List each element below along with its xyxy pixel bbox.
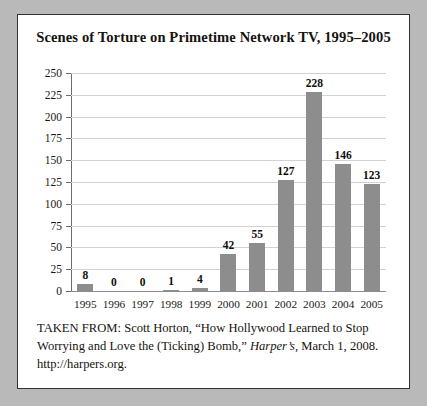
bar-group[interactable]: 1462004 [329,73,358,291]
caption-url: http://harpers.org. [37,357,127,371]
x-tick-label: 2001 [243,298,272,310]
y-tick-label: 25 [51,263,63,275]
bar-value-label: 127 [271,165,300,177]
bar-group[interactable]: 01996 [100,73,129,291]
bar[interactable] [163,290,179,291]
x-tick-label: 1997 [128,298,157,310]
bar-value-label: 55 [243,228,272,240]
caption-source-title: Harper’s [250,339,295,353]
bar-value-label: 42 [214,239,243,251]
bar[interactable] [364,184,380,291]
bar[interactable] [220,254,236,291]
chart-title: Scenes of Torture on Primetime Network T… [18,29,409,46]
bar-group[interactable]: 81995 [71,73,100,291]
y-tick-label: 175 [45,132,62,144]
y-tick-label: 75 [51,220,63,232]
bar-group[interactable]: 11998 [157,73,186,291]
bar-group[interactable]: 422000 [214,73,243,291]
bar[interactable] [77,284,93,291]
x-tick-label: 1998 [157,298,186,310]
x-tick-label: 1996 [100,298,129,310]
bar-value-label: 0 [100,276,129,288]
y-tick-label: 225 [45,89,62,101]
x-tick-label: 2002 [271,298,300,310]
bar-group[interactable]: 1272002 [271,73,300,291]
bar[interactable] [306,92,322,291]
chart-figure: Scenes of Torture on Primetime Network T… [17,14,410,389]
bar-group[interactable]: 01997 [128,73,157,291]
y-tick-label: 250 [45,67,62,79]
y-tick-label: 125 [45,176,62,188]
bar[interactable] [249,243,265,291]
bar[interactable] [278,180,294,291]
bar-value-label: 8 [71,269,100,281]
bar-group[interactable]: 1232005 [357,73,386,291]
plot-area: 0255075100125150175200225250 81995019960… [71,73,386,291]
figure-caption: TAKEN FROM: Scott Horton, “How Hollywood… [37,320,394,374]
bar-group[interactable]: 41999 [186,73,215,291]
caption-text-after-source: , March 1, 2008. [295,339,378,353]
bar-value-label: 146 [329,149,358,161]
bar-value-label: 123 [357,169,386,181]
x-tick-label: 2000 [214,298,243,310]
bar[interactable] [192,288,208,291]
bar-value-label: 0 [128,276,157,288]
y-tick-mark [66,291,71,292]
bar-group[interactable]: 552001 [243,73,272,291]
bar-group[interactable]: 2282003 [300,73,329,291]
y-tick-label: 200 [45,111,62,123]
y-tick-label: 0 [56,285,62,297]
x-tick-label: 2003 [300,298,329,310]
y-tick-label: 50 [51,241,63,253]
bar-value-label: 1 [157,275,186,287]
x-tick-label: 2004 [329,298,358,310]
x-tick-label: 1999 [186,298,215,310]
x-tick-label: 1995 [71,298,100,310]
x-tick-label: 2005 [357,298,386,310]
bar-value-label: 4 [186,273,215,285]
y-tick-label: 150 [45,154,62,166]
bar[interactable] [335,164,351,291]
bar-value-label: 228 [300,77,329,89]
gridline [71,291,386,292]
y-tick-label: 100 [45,198,62,210]
